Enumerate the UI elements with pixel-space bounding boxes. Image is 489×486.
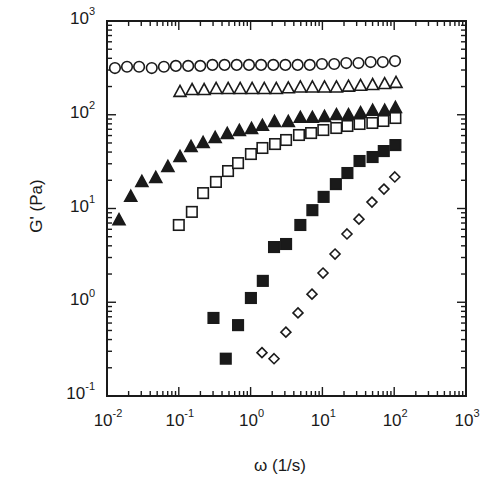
data-point bbox=[198, 188, 209, 199]
x-tick-label: 10-2 bbox=[85, 411, 131, 431]
data-point bbox=[280, 60, 291, 71]
data-point bbox=[355, 107, 367, 118]
data-point bbox=[343, 109, 355, 120]
data-point bbox=[295, 220, 306, 231]
data-point bbox=[198, 84, 210, 95]
data-point bbox=[390, 113, 401, 124]
data-point bbox=[367, 118, 378, 129]
data-point bbox=[174, 220, 185, 231]
y-tick-label: 10-1 bbox=[66, 384, 95, 404]
data-point bbox=[162, 160, 174, 171]
data-point bbox=[233, 158, 244, 169]
data-point bbox=[294, 111, 306, 122]
data-point bbox=[246, 293, 257, 304]
data-point bbox=[353, 58, 364, 69]
data-point bbox=[268, 60, 279, 71]
data-point bbox=[282, 82, 294, 93]
data-point bbox=[342, 121, 353, 131]
data-point bbox=[318, 192, 329, 203]
data-point bbox=[183, 61, 194, 72]
data-point bbox=[281, 327, 291, 337]
data-point bbox=[134, 61, 145, 72]
data-point bbox=[258, 82, 270, 93]
series-open-circles bbox=[110, 56, 401, 74]
data-point bbox=[306, 111, 318, 122]
data-point bbox=[257, 348, 267, 358]
data-point bbox=[187, 207, 198, 218]
data-point bbox=[207, 60, 218, 71]
data-point bbox=[185, 140, 197, 151]
data-point bbox=[294, 130, 305, 141]
data-point bbox=[365, 57, 376, 68]
data-point bbox=[304, 60, 315, 71]
data-point bbox=[186, 84, 198, 95]
data-point bbox=[292, 60, 303, 71]
data-point bbox=[307, 289, 317, 299]
series-filled-squares bbox=[208, 140, 400, 364]
data-point bbox=[379, 184, 389, 194]
data-point bbox=[146, 63, 157, 74]
data-point bbox=[367, 79, 379, 90]
plot-border bbox=[107, 21, 466, 396]
data-point bbox=[390, 56, 401, 67]
data-point bbox=[367, 152, 378, 163]
data-point bbox=[331, 179, 342, 190]
data-point bbox=[354, 119, 365, 130]
data-point bbox=[222, 82, 234, 93]
data-point bbox=[150, 171, 162, 182]
y-tick-label: 103 bbox=[70, 9, 95, 29]
axis-ticks bbox=[107, 21, 466, 396]
y-axis-label: G' (Pa) bbox=[27, 171, 47, 241]
data-point bbox=[342, 168, 353, 179]
data-point bbox=[159, 61, 170, 72]
y-tick-label: 101 bbox=[70, 197, 95, 217]
data-point bbox=[258, 276, 269, 287]
data-point bbox=[390, 140, 401, 151]
axes-frame bbox=[107, 21, 466, 396]
x-tick-label: 100 bbox=[229, 411, 275, 431]
data-point bbox=[294, 81, 306, 92]
y-tick-label: 102 bbox=[70, 103, 95, 123]
x-tick-label: 102 bbox=[372, 411, 418, 431]
data-point bbox=[234, 82, 246, 93]
data-point bbox=[390, 172, 400, 182]
data-point bbox=[354, 214, 364, 224]
data-point bbox=[246, 82, 258, 93]
data-point bbox=[367, 104, 379, 115]
data-point bbox=[171, 61, 182, 72]
data-point bbox=[378, 116, 389, 127]
data-point bbox=[256, 119, 268, 130]
data-point bbox=[208, 313, 219, 324]
data-point bbox=[378, 57, 389, 68]
data-point bbox=[211, 177, 222, 188]
data-point bbox=[113, 214, 125, 225]
data-point bbox=[136, 175, 148, 186]
data-point bbox=[281, 239, 292, 250]
data-point bbox=[282, 115, 294, 126]
data-point bbox=[110, 63, 121, 74]
data-point bbox=[197, 136, 209, 147]
data-point bbox=[330, 109, 342, 120]
data-point bbox=[307, 205, 318, 216]
data-point bbox=[317, 59, 328, 70]
data-point bbox=[270, 139, 281, 150]
data-point bbox=[246, 149, 257, 160]
series-open-triangles bbox=[174, 76, 402, 96]
data-point bbox=[125, 190, 137, 201]
x-tick-label: 103 bbox=[444, 411, 489, 431]
data-point bbox=[281, 135, 292, 146]
chart: 10-1100101102103 10-210-1100101102103 G'… bbox=[0, 0, 489, 486]
data-point bbox=[367, 197, 377, 207]
y-tick-label: 100 bbox=[70, 290, 95, 310]
x-axis-label: ω (1/s) bbox=[254, 456, 306, 476]
data-point bbox=[293, 308, 303, 318]
data-point bbox=[246, 122, 258, 133]
data-point bbox=[342, 229, 352, 239]
data-point bbox=[223, 166, 234, 177]
data-point bbox=[329, 59, 340, 70]
data-point bbox=[231, 60, 242, 71]
data-point bbox=[269, 354, 279, 364]
data-point bbox=[318, 125, 329, 136]
data-point bbox=[390, 76, 402, 87]
data-point bbox=[256, 60, 267, 71]
